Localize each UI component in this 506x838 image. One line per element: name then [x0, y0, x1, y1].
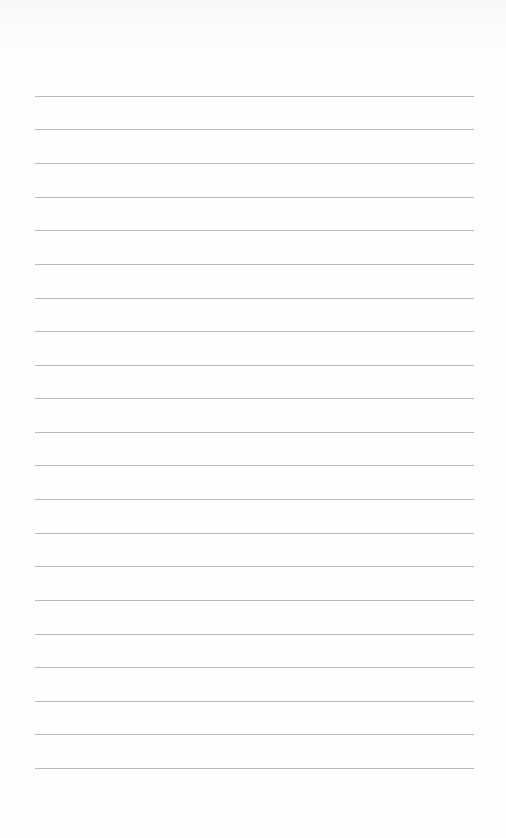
ruled-line	[35, 533, 474, 534]
ruled-line	[35, 331, 474, 332]
ruled-line	[35, 701, 474, 702]
bleed-through-area	[0, 0, 506, 60]
ruled-line	[35, 264, 474, 265]
lined-paper-page	[0, 0, 506, 838]
ruled-line	[35, 499, 474, 500]
ruled-line	[35, 432, 474, 433]
ruled-line	[35, 365, 474, 366]
ruled-line	[35, 734, 474, 735]
ruled-line	[35, 465, 474, 466]
ruled-line	[35, 96, 474, 97]
ruled-line	[35, 230, 474, 231]
ruled-line	[35, 566, 474, 567]
ruled-line	[35, 298, 474, 299]
ruled-line	[35, 129, 474, 130]
ruled-line	[35, 667, 474, 668]
ruled-line	[35, 634, 474, 635]
ruled-line	[35, 768, 474, 769]
ruled-line	[35, 197, 474, 198]
ruled-line	[35, 163, 474, 164]
ruled-line	[35, 600, 474, 601]
ruled-line	[35, 398, 474, 399]
